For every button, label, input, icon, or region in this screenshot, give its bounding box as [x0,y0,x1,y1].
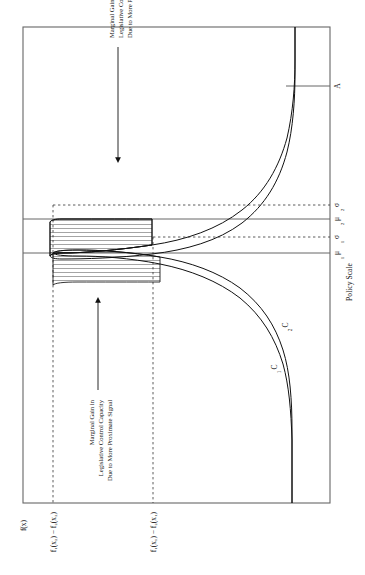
x-tick-sigma-1: σ 1 [332,235,345,243]
x-tick-sigma-2-sub: 2 [340,208,345,211]
x-axis-title: Policy Scale [345,262,354,300]
curve-label-c2-base: C [281,322,290,327]
hatched-regions [50,219,160,285]
x-tick-mu-1: μ 1 [332,251,345,259]
x-tick-sigma-1-base: σ [332,235,341,239]
curve-label-c2: C 2 [281,322,293,331]
x-tick-mu-2-sub: 2 [340,222,345,225]
rotated-density-figure: Marginal Gain in Legislative Control Cap… [0,0,365,575]
x-tick-mu-2-base: μ [332,217,341,221]
annotation-upper-line3: Due to More Proximate Signal [126,0,133,38]
x-tick-mu-2: μ 2 [332,217,345,225]
annotation-lower-line3: Due to More Proximate Signal [106,400,113,481]
annotation-lower: Marginal Gain in Legislative Control Cap… [88,300,113,481]
curve-c1 [53,250,292,503]
figure-canvas: Marginal Gain in Legislative Control Cap… [0,0,365,575]
x-tick-sigma-2: σ 2 [332,203,345,211]
annotation-lower-line1: Marginal Gain in [88,399,95,445]
annotation-upper-line2: Legislative Control Capacity [117,0,124,38]
x-tick-mu-1-sub: 1 [340,256,345,259]
x-tick-sigma-2-base: σ [332,203,341,207]
curve-label-c2-sub: 2 [287,328,293,331]
x-tick-A-base: A [333,83,342,89]
y-tick-label-x2: f₁(x₂) − f₂(x₂) [49,511,58,552]
annotation-upper-line1: Marginal Gain in [108,0,115,38]
x-axis-tick-labels: μ 1 σ 1 μ 2 σ 2 A [332,83,345,260]
y-axis-title: f(x) [19,519,28,531]
x-tick-A: A [333,83,342,89]
y-tick-label-x1: f₁(x₁) − f₂(x₁) [149,511,158,552]
curve-label-c1: C 1 [270,364,282,373]
hatch-region-c1 [53,250,160,285]
curve-label-c1-sub: 1 [276,370,282,373]
x-tick-sigma-1-sub: 1 [340,240,345,243]
annotation-upper: Marginal Gain in Legislative Control Cap… [108,0,133,160]
annotation-lower-line2: Legislative Control Capacity [97,399,104,476]
curve-label-c1-base: C [270,364,279,369]
x-tick-mu-1-base: μ [332,251,341,255]
